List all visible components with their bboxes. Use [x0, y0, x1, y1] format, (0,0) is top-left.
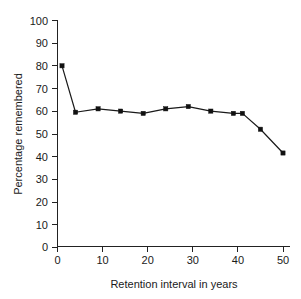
data-point	[240, 111, 244, 115]
chart-figure: 100 90 80 70 60 50 40 30 20 10 0 0 10 20…	[0, 0, 301, 299]
x-axis-title: Retention interval in years	[110, 278, 238, 290]
y-tick-label: 20	[36, 196, 48, 208]
y-tick-label: 90	[36, 37, 48, 49]
x-tick-label: 0	[54, 254, 60, 266]
x-tick-label: 30	[187, 254, 199, 266]
data-point	[60, 64, 64, 68]
data-point	[73, 110, 77, 114]
data-point	[141, 111, 145, 115]
data-point	[96, 107, 100, 111]
y-tick-label: 10	[36, 219, 48, 231]
y-tick-label: 100	[30, 15, 48, 27]
y-tick-label: 0	[42, 241, 48, 253]
y-axis-title: Percentage remembered	[12, 73, 24, 195]
y-tick-label: 50	[36, 128, 48, 140]
data-point	[209, 109, 213, 113]
data-point	[164, 107, 168, 111]
data-point	[119, 109, 123, 113]
y-tick-label: 40	[36, 151, 48, 163]
y-tick-label: 30	[36, 173, 48, 185]
x-tick-label: 50	[277, 254, 289, 266]
x-tick-label: 40	[232, 254, 244, 266]
x-tick-label: 10	[96, 254, 108, 266]
y-tick-label: 80	[36, 60, 48, 72]
data-point	[258, 127, 262, 131]
data-point	[231, 111, 235, 115]
data-point	[281, 151, 285, 155]
y-tick-label: 60	[36, 105, 48, 117]
x-tick-label: 20	[142, 254, 154, 266]
line-chart: 100 90 80 70 60 50 40 30 20 10 0 0 10 20…	[0, 0, 301, 299]
y-tick-label: 70	[36, 83, 48, 95]
data-point	[186, 104, 190, 108]
